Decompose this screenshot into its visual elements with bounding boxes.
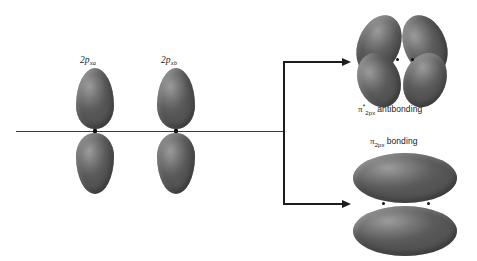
orbital-b-label-main: 2p [161,55,171,65]
bracket-lower-arm [283,203,344,205]
antibonding-node-left [396,58,399,61]
orbital-a-label-main: 2p [80,55,90,65]
bonding-lobe-top [353,153,457,203]
bracket-vertical-stem [283,62,285,204]
bonding-lobe-bottom [353,206,457,256]
bonding-subscript-tail: x [382,142,385,148]
orbital-b-top-lobe [157,68,195,129]
bonding-nucleus-right [427,202,430,205]
bonding-nucleus-left [382,202,385,205]
orbital-a-top-lobe [76,68,114,129]
bonding-subscript: 2p [375,142,382,148]
antibonding-word: antibonding [377,104,422,114]
orbital-b-bottom-lobe [157,133,195,194]
orbital-a-bottom-lobe [76,133,114,194]
arrow-to-antibonding-icon [342,58,351,66]
bonding-word: bonding [387,136,418,146]
internuclear-axis-line [16,131,283,132]
orbital-b-label: 2pxb [161,55,177,66]
antibonding-node-right [411,58,414,61]
orbital-a-label-sub: xa [90,59,96,66]
antibonding-subscript-tail: x [372,110,375,116]
orbital-diagram-canvas: 2pxa 2pxb π*2pxantibonding [0,0,477,261]
arrow-to-bonding-icon [342,200,351,208]
orbital-b-label-sub: xb [171,59,177,66]
orbital-b-nucleus [174,129,178,133]
orbital-a-label: 2pxa [80,55,96,66]
orbital-a-nucleus [93,129,97,133]
bracket-upper-arm [283,61,344,63]
antibonding-label: π*2pxantibonding [358,103,422,116]
bonding-label: π2pxbonding [370,136,418,148]
